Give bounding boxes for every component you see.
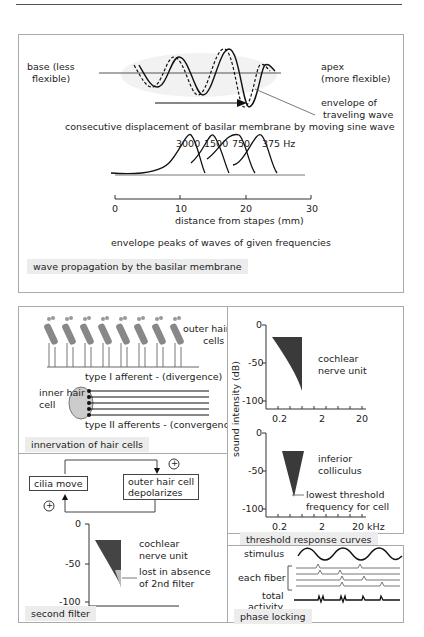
ohc-line-1: outer hair cell	[128, 476, 194, 487]
inner-hair-label-2: cell	[39, 399, 55, 410]
outer-hair-label-2: cells	[203, 335, 224, 346]
x-tick-10: 10	[175, 203, 187, 214]
top-chart-label: cochlear	[318, 353, 359, 364]
bottom-chart-label-2: colliculus	[318, 465, 362, 476]
plus-icon-2: +	[46, 500, 53, 511]
top-x-tick-20: 20	[356, 413, 368, 424]
top-x-tick-2: 2	[319, 413, 325, 424]
bottom-y-tick-100: -100	[242, 503, 264, 514]
bottom-x-tick-02: 0.2	[272, 521, 287, 532]
lost-label-2: of 2nd filter	[139, 578, 194, 589]
type1-label: type I afferent - (divergence)	[85, 371, 222, 382]
caption-wave-propagation: wave propagation by the basilar membrane	[27, 259, 248, 274]
outer-hair-cell-box: outer hair cell depolarizes	[123, 474, 199, 500]
bottom-x-tick-2: 2	[319, 521, 325, 532]
y-tick-0: 0	[75, 518, 81, 529]
bottom-x-tick-20khz: 20 kHz	[352, 521, 385, 532]
caption-phase-locking: phase locking	[234, 609, 312, 624]
x-tick-0: 0	[112, 203, 118, 214]
panel-wave-propagation-body: base (less flexible) apex (more flexible…	[18, 34, 404, 293]
bottom-y-tick-50: -50	[248, 465, 264, 476]
each-fiber-label: each fiber	[238, 572, 286, 583]
type2-label: type II afferents - (convergence)	[85, 419, 238, 430]
lowest-threshold-label: lowest threshold	[306, 489, 385, 500]
top-x-tick-02: 0.2	[272, 413, 287, 424]
caption-second-filter: second filter	[25, 606, 96, 621]
panel-second-filter: cilia move outer hair cell depolarizes +…	[18, 453, 228, 623]
freq-label-1500: 1500	[204, 138, 228, 149]
lost-label: lost in absence	[139, 566, 211, 577]
top-y-tick-100: -100	[242, 395, 264, 406]
panel-threshold: sound intensity (dB) 0 -50 -100 0.2 2 20…	[227, 306, 404, 534]
traveling-wave-diagram	[19, 35, 405, 294]
x-tick-20: 20	[240, 203, 252, 214]
top-chart-label-2: nerve unit	[318, 365, 367, 376]
x-tick-30: 30	[306, 203, 318, 214]
caption-innervation: innervation of hair cells	[25, 437, 149, 452]
freq-label-3000: 3000	[176, 138, 200, 149]
total-label: total	[262, 590, 284, 601]
freq-label-750: 750	[232, 138, 250, 149]
x-axis-label: distance from stapes (mm)	[175, 215, 304, 226]
bottom-y-tick-0: 0	[256, 427, 262, 438]
bottom-chart-label: inferior	[318, 453, 352, 464]
stimulus-label: stimulus	[244, 548, 284, 559]
freq-label-375: 375 Hz	[262, 138, 295, 149]
panel-innervation: outer hair cells type I afferent - (dive…	[18, 306, 228, 454]
unit-label-2: nerve unit	[139, 550, 188, 561]
panel-phase-locking: stimulus each fiber total activity phase…	[227, 545, 404, 623]
top-y-tick-0: 0	[256, 319, 262, 330]
inner-hair-label: inner hair	[39, 387, 85, 398]
ohc-line-2: depolarizes	[128, 487, 194, 498]
top-y-tick-50: -50	[248, 357, 264, 368]
lowest-threshold-label-2: frequency for cell	[306, 501, 389, 512]
y-tick-50: -50	[65, 558, 81, 569]
outer-hair-label: outer hair	[183, 323, 230, 334]
cilia-move-box: cilia move	[29, 476, 88, 491]
y-axis-label: sound intensity (dB)	[230, 361, 241, 457]
displacement-caption: consecutive displacement of basilar memb…	[65, 121, 395, 132]
plus-icon: +	[171, 458, 178, 469]
page-top-rule	[16, 4, 402, 5]
peaks-caption: envelope peaks of waves of given frequen…	[111, 237, 331, 248]
unit-label: cochlear	[139, 538, 180, 549]
